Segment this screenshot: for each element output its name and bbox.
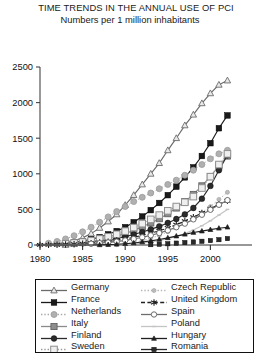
chart-legend: GermanyFranceNetherlandsItalyFinlandSwed…: [35, 279, 254, 353]
legend-sample: [140, 294, 168, 305]
legend-sample: [140, 318, 168, 329]
page-title: TIME TRENDS IN THE ANNUAL USE OF PCI: [0, 2, 256, 13]
svg-text:2500: 2500: [12, 62, 33, 72]
svg-text:1990: 1990: [115, 254, 136, 264]
legend-item-italy[interactable]: Italy: [40, 317, 140, 329]
legend-item-sweden[interactable]: Sweden: [40, 341, 140, 353]
legend-item-label: Finland: [71, 330, 102, 341]
legend-item-label: Czech Republic: [171, 282, 236, 293]
svg-text:1995: 1995: [157, 254, 178, 264]
legend-sample: [140, 341, 168, 352]
legend-item-finland[interactable]: Finland: [40, 329, 140, 341]
legend-item-label: Romania: [171, 341, 208, 352]
legend-marker-small-filled-square-icon: [140, 344, 168, 353]
chart-title-block: TIME TRENDS IN THE ANNUAL USE OF PCI Num…: [0, 2, 256, 25]
legend-item-romania[interactable]: Romania: [140, 341, 254, 353]
legend-item-label: Netherlands: [71, 306, 121, 317]
legend-sample: [140, 306, 168, 317]
legend-sample: [140, 282, 168, 293]
legend-item-poland[interactable]: Poland: [140, 317, 254, 329]
legend-item-czech-republic[interactable]: Czech Republic: [140, 282, 254, 294]
chart-subtitle: Numbers per 1 million inhabitants: [0, 14, 256, 25]
legend-item-spain[interactable]: Spain: [140, 306, 254, 318]
legend-item-label: Italy: [71, 318, 88, 329]
legend-item-label: Germany: [71, 282, 109, 293]
svg-text:1000: 1000: [12, 169, 33, 179]
legend-item-label: Sweden: [71, 341, 105, 352]
svg-text:1500: 1500: [12, 134, 33, 144]
legend-item-germany[interactable]: Germany: [40, 282, 140, 294]
legend-marker-open-square-icon: [40, 344, 68, 353]
legend-sample: [140, 330, 168, 341]
svg-text:1980: 1980: [30, 254, 51, 264]
legend-item-label: United Kingdom: [171, 294, 237, 305]
legend-item-label: Poland: [171, 318, 200, 329]
svg-text:0: 0: [28, 240, 33, 250]
legend-item-label: France: [71, 294, 100, 305]
legend-item-france[interactable]: France: [40, 294, 140, 306]
legend-sample: [40, 341, 68, 352]
legend-item-label: Hungary: [171, 330, 206, 341]
legend-sample: [40, 330, 68, 341]
legend-sample: [40, 294, 68, 305]
legend-column-right: Czech RepublicUnited KingdomSpainPolandH…: [140, 282, 254, 353]
legend-sample: [40, 282, 68, 293]
chart-series-layer: [37, 77, 231, 248]
legend-item-netherlands[interactable]: Netherlands: [40, 306, 140, 318]
legend-item-united-kingdom[interactable]: United Kingdom: [140, 294, 254, 306]
svg-text:500: 500: [17, 205, 33, 215]
legend-item-hungary[interactable]: Hungary: [140, 329, 254, 341]
svg-text:1985: 1985: [72, 254, 93, 264]
line-chart-plot: 0500100015002000250019801985199019952000: [0, 26, 256, 276]
legend-item-label: Spain: [171, 306, 195, 317]
svg-text:2000: 2000: [12, 98, 33, 108]
legend-column-left: GermanyFranceNetherlandsItalyFinlandSwed…: [40, 282, 140, 353]
legend-sample: [40, 318, 68, 329]
svg-text:2000: 2000: [200, 254, 221, 264]
legend-sample: [40, 306, 68, 317]
